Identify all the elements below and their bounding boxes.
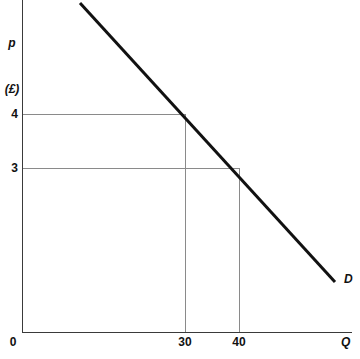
x-tick-label-40: 40 — [229, 336, 249, 348]
y-axis-label-price: p — [4, 37, 20, 49]
origin-label: 0 — [6, 336, 20, 348]
x-axis-label: Q — [341, 336, 350, 348]
y-tick-label-3: 3 — [6, 162, 18, 174]
plot-background — [0, 0, 360, 359]
demand-curve-plot — [0, 0, 360, 359]
demand-curve-label: D — [344, 273, 353, 285]
x-tick-label-30: 30 — [175, 336, 195, 348]
y-tick-label-4: 4 — [6, 108, 18, 120]
y-axis-label-currency: (£) — [4, 83, 20, 95]
demand-curve-figure: p (£) 4 3 0 30 40 Q D — [0, 0, 360, 359]
